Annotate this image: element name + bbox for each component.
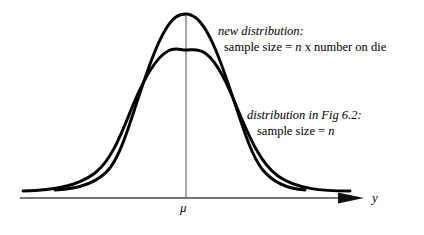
x-axis-variable-label: y bbox=[372, 190, 378, 206]
x-axis-mu-label: μ bbox=[180, 200, 187, 216]
annotation-new-detail-suffix: x number on die bbox=[302, 40, 387, 54]
annotation-fig62-detail-prefix: sample size = bbox=[257, 124, 328, 138]
annotation-fig62-title: distribution in Fig 6.2: bbox=[247, 108, 362, 123]
annotation-fig62-detail-variable: n bbox=[328, 124, 334, 138]
annotation-fig62-detail: sample size = n bbox=[257, 124, 335, 139]
annotation-new-distribution-title: new distribution: bbox=[218, 24, 304, 39]
normal-distribution-figure: new distribution: sample size = n x numb… bbox=[0, 0, 424, 235]
annotation-new-distribution-detail: sample size = n x number on die bbox=[224, 40, 386, 55]
right-arrow-icon bbox=[338, 193, 364, 204]
annotation-new-detail-prefix: sample size = bbox=[224, 40, 295, 54]
